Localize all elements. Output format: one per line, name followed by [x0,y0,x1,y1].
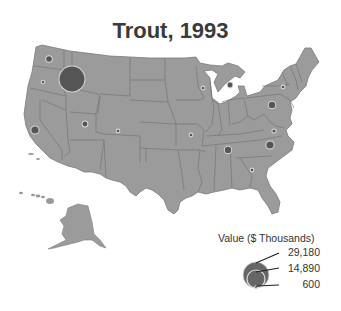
bubble-tennessee[interactable] [224,146,232,154]
legend-title: Value ($ Thousands) [218,232,315,244]
bubble-new-york[interactable] [281,85,286,90]
hawaii-shape [19,192,54,204]
bubble-wisconsin[interactable] [201,86,206,91]
bubble-pennsylvania[interactable] [268,101,276,109]
legend-value-small: 600 [270,278,320,290]
bubble-north-carolina[interactable] [265,140,274,149]
bubble-virginia[interactable] [271,128,276,133]
legend-value-large: 29,180 [270,246,320,258]
bubble-washington[interactable] [45,55,53,63]
bubble-oregon[interactable] [41,80,46,85]
bubble-missouri[interactable] [189,133,194,138]
bubble-georgia[interactable] [250,168,255,173]
alaska-shape [48,204,106,249]
legend-value-medium: 14,890 [270,262,320,274]
bubble-california[interactable] [30,125,39,134]
bubble-idaho[interactable] [59,66,86,93]
bubble-utah[interactable] [82,121,89,128]
bubble-michigan[interactable] [227,82,234,89]
bubble-colorado[interactable] [116,129,121,134]
